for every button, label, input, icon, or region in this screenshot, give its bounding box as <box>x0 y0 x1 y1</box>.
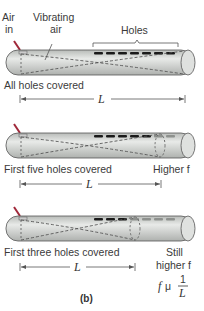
tube-caption: First five holes covered <box>4 163 112 175</box>
length-dimension: L <box>20 260 135 274</box>
panel-label: (b) <box>80 293 93 304</box>
tube-caption: All holes covered <box>4 79 84 91</box>
tube-end-opening <box>181 133 195 158</box>
svg-text:L: L <box>85 177 93 191</box>
svg-text:L: L <box>178 286 186 300</box>
svg-text:L: L <box>97 92 105 106</box>
svg-text:1: 1 <box>180 273 186 285</box>
air-in-label-1: Air <box>2 11 15 23</box>
tube-first-five-covered: First five holes covered Higher f L <box>4 124 195 191</box>
flute-diagram: Air in Vibrating air Holes All holes cov… <box>0 0 204 311</box>
air-in-label-2: in <box>5 23 13 35</box>
svg-text:L: L <box>73 260 81 274</box>
svg-text:μ: μ <box>165 280 171 292</box>
length-dimension: L <box>20 177 161 191</box>
tube-end-opening <box>181 50 195 75</box>
tube-all-holes-covered: Air in Vibrating air Holes All holes cov… <box>2 11 195 106</box>
length-dimension: L <box>20 92 185 106</box>
air-in-arrow-icon <box>14 207 20 216</box>
holes-label: Holes <box>121 24 148 36</box>
vibrating-air-label-2: air <box>50 23 62 35</box>
tube-end-opening <box>181 216 195 241</box>
holes-brace <box>93 40 178 47</box>
mouth-hole <box>19 51 27 54</box>
frequency-note-1: Still <box>166 246 183 258</box>
tube-first-three-covered: First three holes covered Still higher f… <box>4 207 195 274</box>
svg-text:f: f <box>158 279 163 293</box>
tube-caption: First three holes covered <box>4 246 120 258</box>
proportionality-formula: f μ 1 L <box>158 273 188 300</box>
frequency-note: Higher f <box>153 163 190 175</box>
frequency-note-2: higher f <box>156 259 191 271</box>
air-in-arrow-icon <box>14 41 20 50</box>
air-in-arrow-icon <box>14 124 20 133</box>
vibrating-air-label-1: Vibrating <box>33 11 74 23</box>
